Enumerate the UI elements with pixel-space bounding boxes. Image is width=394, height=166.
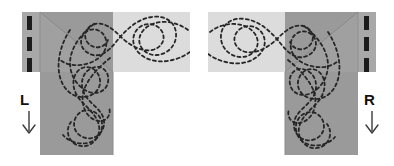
lane-dash-group: [27, 16, 32, 72]
panel-right-turn: [197, 0, 394, 166]
left-turn-label: L: [20, 92, 29, 107]
lane-dash: [364, 58, 369, 72]
right-turn-label: R: [364, 92, 375, 107]
right-approach-arrow: [361, 110, 383, 138]
lane-dash-group: [364, 16, 369, 72]
panel-left-turn: [0, 0, 197, 166]
figure-root: L R: [0, 0, 394, 166]
lane-dash: [364, 37, 369, 51]
left-approach-arrow: [18, 110, 40, 138]
lane-dash: [364, 16, 369, 30]
road-surface-group: [208, 12, 376, 155]
lane-dash: [27, 16, 32, 30]
lane-dash: [27, 58, 32, 72]
road-surface-group: [22, 12, 190, 155]
lane-dash: [27, 37, 32, 51]
